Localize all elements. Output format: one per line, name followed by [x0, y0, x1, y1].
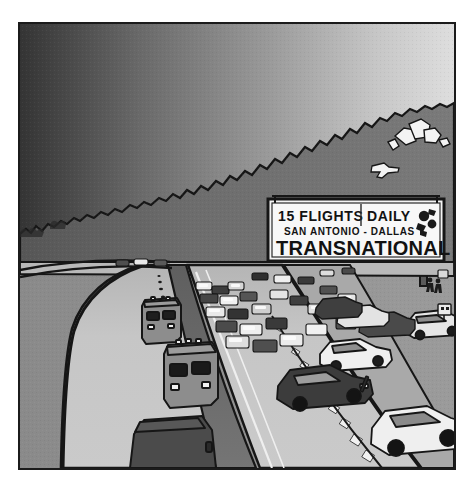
pedestrian-2 [434, 279, 442, 293]
roadside-sign [438, 304, 451, 322]
pedestrian-1 [426, 278, 434, 292]
small-sign-left [438, 270, 448, 278]
illustration-frame: 15 FLIGHTS DAILY SAN ANTONIO - DALLAS TR… [18, 22, 456, 470]
roadside-figures [20, 24, 454, 468]
illustration-stage: 15 FLIGHTS DAILY SAN ANTONIO - DALLAS TR… [0, 0, 469, 485]
